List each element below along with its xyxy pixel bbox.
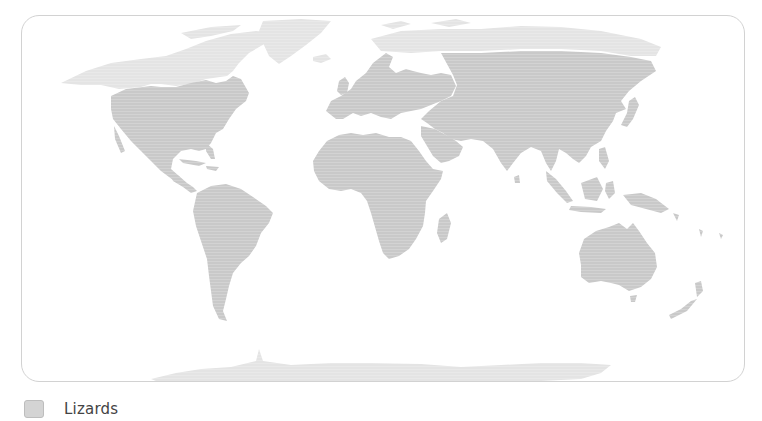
- map-legend: Lizards: [24, 398, 118, 420]
- legend-label-lizards: Lizards: [64, 400, 118, 418]
- map-frame: [21, 15, 745, 382]
- legend-swatch-icon: [24, 400, 44, 418]
- world-map: [22, 16, 745, 382]
